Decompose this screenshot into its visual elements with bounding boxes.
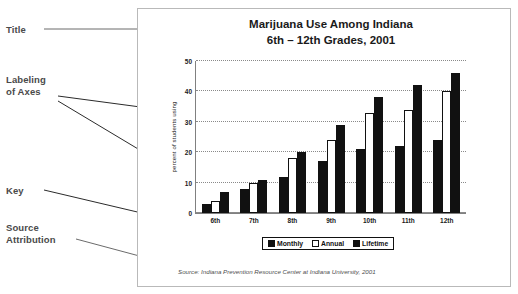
legend-item-monthly: Monthly <box>268 240 303 247</box>
x-tick-label: 7th <box>235 217 274 224</box>
bar-annual-6th <box>211 201 220 213</box>
y-tick-label: 50 <box>185 58 192 65</box>
x-tick-label: 10th <box>350 217 389 224</box>
bar-monthly-7th <box>240 189 249 213</box>
y-tick-label: 10 <box>185 179 192 186</box>
legend-label: Lifetime <box>362 240 388 247</box>
bar-lifetime-9th <box>336 125 345 213</box>
bar-annual-12th <box>442 91 451 213</box>
bar-monthly-9th <box>318 161 327 213</box>
bar-group: 8th <box>273 61 312 213</box>
bar-annual-11th <box>404 110 413 213</box>
bar-monthly-6th <box>202 204 211 213</box>
annotation-title: Title <box>6 24 26 36</box>
bar-group: 9th <box>312 61 351 213</box>
chart-legend: MonthlyAnnualLifetime <box>262 237 394 250</box>
bar-group: 7th <box>235 61 274 213</box>
bar-annual-10th <box>365 113 374 213</box>
bar-group: 11th <box>389 61 428 213</box>
x-tick-label: 9th <box>312 217 351 224</box>
bar-group: 6th <box>196 61 235 213</box>
annotation-key: Key <box>6 185 24 197</box>
bar-lifetime-7th <box>258 180 267 213</box>
legend-swatch-monthly <box>268 240 275 247</box>
bar-annual-8th <box>288 158 297 213</box>
bar-monthly-8th <box>279 177 288 213</box>
plot-area: 01020304050 6th7th8th9th10th11th12th <box>195 61 466 214</box>
bar-monthly-11th <box>395 146 404 213</box>
bar-lifetime-10th <box>374 97 383 213</box>
y-tick-label: 0 <box>188 210 192 217</box>
annotation-source-attribution: Source Attribution <box>6 222 56 246</box>
bar-monthly-12th <box>433 140 442 213</box>
leader-line-y-axis <box>58 96 148 108</box>
y-tick-label: 20 <box>185 149 192 156</box>
annotation-labeling-of-axes: Labeling of Axes <box>6 74 46 98</box>
legend-label: Monthly <box>277 240 303 247</box>
bar-annual-7th <box>249 183 258 213</box>
bar-groups: 6th7th8th9th10th11th12th <box>196 61 466 213</box>
bar-lifetime-8th <box>297 152 306 213</box>
y-tick-label: 40 <box>185 88 192 95</box>
x-tick-label: 12th <box>427 217 466 224</box>
y-tick-label: 30 <box>185 118 192 125</box>
legend-item-annual: Annual <box>312 240 344 247</box>
x-tick-label: 8th <box>273 217 312 224</box>
x-tick-label: 11th <box>389 217 428 224</box>
legend-label: Annual <box>321 240 344 247</box>
screenshot-root: Title Labeling of Axes Key Source Attrib… <box>0 0 518 294</box>
bar-lifetime-11th <box>413 85 422 213</box>
legend-swatch-annual <box>312 240 319 247</box>
bar-group: 12th <box>427 61 466 213</box>
bar-lifetime-6th <box>220 192 229 213</box>
y-axis-title: percent of students using <box>168 61 180 213</box>
legend-swatch-lifetime <box>353 240 360 247</box>
source-attribution-text: Source: Indiana Prevention Resource Cent… <box>178 268 376 275</box>
x-tick-label: 6th <box>196 217 235 224</box>
bar-group: 10th <box>350 61 389 213</box>
bar-annual-9th <box>327 140 336 213</box>
legend-item-lifetime: Lifetime <box>353 240 388 247</box>
chart-title: Marijuana Use Among Indiana 6th – 12th G… <box>138 17 510 48</box>
bar-monthly-10th <box>356 149 365 213</box>
y-axis-title-text: percent of students using <box>171 102 177 173</box>
bar-lifetime-12th <box>451 73 460 213</box>
figure-frame: Marijuana Use Among Indiana 6th – 12th G… <box>137 8 511 287</box>
